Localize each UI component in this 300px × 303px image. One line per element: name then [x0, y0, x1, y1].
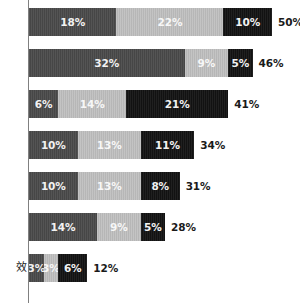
bar-row: 6%14%21%41%: [0, 90, 300, 118]
segment-value-label: 32%: [94, 58, 119, 69]
bar-row: 14%9%5%28%: [0, 213, 300, 241]
bar-segment-segment-2[interactable]: 13%: [78, 172, 141, 200]
bar-track: 14%9%5%28%: [29, 213, 165, 241]
segment-value-label: 9%: [198, 58, 216, 69]
segment-value-label: 8%: [151, 181, 169, 192]
bar-segment-segment-3[interactable]: 11%: [141, 131, 194, 159]
bar-track: 10%13%8%31%: [29, 172, 180, 200]
segment-value-label: 3%: [29, 263, 44, 274]
segment-value-label: 5%: [144, 222, 162, 233]
segment-value-label: 13%: [97, 140, 122, 151]
segment-value-label: 22%: [158, 17, 183, 28]
bar-row: 10%13%8%31%: [0, 172, 300, 200]
chart-rows: 18%22%10%50%32%9%5%46%6%14%21%41%10%13%1…: [0, 0, 300, 303]
bar-segment-segment-3[interactable]: 10%: [223, 8, 272, 36]
bar-segment-segment-1[interactable]: 10%: [29, 131, 78, 159]
segment-value-label: 21%: [165, 99, 190, 110]
segment-value-label: 10%: [41, 140, 66, 151]
segment-value-label: 3%: [44, 263, 59, 274]
row-total-label: 12%: [87, 254, 118, 282]
segment-value-label: 9%: [110, 222, 128, 233]
bar-segment-segment-2[interactable]: 13%: [78, 131, 141, 159]
bar-track: 10%13%11%34%: [29, 131, 194, 159]
bar-segment-segment-3[interactable]: 5%: [228, 49, 252, 77]
segment-value-label: 5%: [232, 58, 250, 69]
row-total-label: 50%: [272, 8, 300, 36]
bar-segment-segment-1[interactable]: 6%: [29, 90, 58, 118]
bar-segment-segment-1[interactable]: 3%: [29, 254, 44, 282]
bar-row: 18%22%10%50%: [0, 8, 300, 36]
bar-segment-segment-3[interactable]: 21%: [126, 90, 228, 118]
bar-segment-segment-1[interactable]: 18%: [29, 8, 116, 36]
segment-value-label: 11%: [155, 140, 180, 151]
bar-segment-segment-3[interactable]: 5%: [141, 213, 165, 241]
bar-segment-segment-2[interactable]: 3%: [44, 254, 59, 282]
row-total-label: 34%: [194, 131, 225, 159]
bar-track: 效3%3%6%12%: [29, 254, 87, 282]
row-total-label: 31%: [180, 172, 211, 200]
category-label: 效: [13, 254, 29, 282]
row-total-label: 28%: [165, 213, 196, 241]
bar-track: 32%9%5%46%: [29, 49, 253, 77]
bar-segment-segment-2[interactable]: 9%: [185, 49, 229, 77]
bar-row: 32%9%5%46%: [0, 49, 300, 77]
segment-value-label: 6%: [35, 99, 53, 110]
bar-segment-segment-1[interactable]: 14%: [29, 213, 97, 241]
segment-value-label: 6%: [64, 263, 82, 274]
bar-segment-segment-2[interactable]: 22%: [116, 8, 223, 36]
bar-segment-segment-2[interactable]: 9%: [97, 213, 141, 241]
segment-value-label: 10%: [41, 181, 66, 192]
bar-segment-segment-2[interactable]: 14%: [58, 90, 126, 118]
bar-segment-segment-1[interactable]: 10%: [29, 172, 78, 200]
segment-value-label: 14%: [80, 99, 105, 110]
segment-value-label: 13%: [97, 181, 122, 192]
bar-segment-segment-3[interactable]: 6%: [58, 254, 87, 282]
row-total-label: 46%: [253, 49, 284, 77]
segment-value-label: 14%: [51, 222, 76, 233]
segment-value-label: 18%: [60, 17, 85, 28]
stacked-bar-chart: 18%22%10%50%32%9%5%46%6%14%21%41%10%13%1…: [0, 0, 300, 303]
bar-track: 18%22%10%50%: [29, 8, 272, 36]
bar-segment-segment-3[interactable]: 8%: [141, 172, 180, 200]
segment-value-label: 10%: [235, 17, 260, 28]
bar-segment-segment-1[interactable]: 32%: [29, 49, 185, 77]
bar-row: 效3%3%6%12%: [0, 254, 300, 282]
bar-row: 10%13%11%34%: [0, 131, 300, 159]
row-total-label: 41%: [228, 90, 259, 118]
bar-track: 6%14%21%41%: [29, 90, 228, 118]
